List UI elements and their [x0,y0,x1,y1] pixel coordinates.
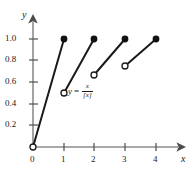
x-tick-label-0: 0 [30,155,35,164]
segment-1-line [33,39,64,147]
open-point-0-0 [30,144,36,150]
filled-point-1-1 [61,36,68,43]
y-axis-label: y [22,10,26,20]
y-tick-label-0.6: 0.6 [5,77,16,86]
open-point-3-075 [122,63,128,69]
filled-point-3-1 [122,36,129,43]
open-point-2-0667 [91,72,97,78]
y-tick-label-0.2: 0.2 [5,120,16,129]
x-tick-label-3: 3 [122,155,127,164]
data-segments [33,39,156,147]
open-point-1-05 [61,90,67,96]
plot-canvas [0,0,195,174]
equation-denominator: [x] [82,92,93,99]
segment-3-line [94,39,125,75]
x-tick-label-4: 4 [153,155,158,164]
segment-4-line [125,39,156,66]
x-tick-label-2: 2 [91,155,96,164]
x-axis [33,143,178,151]
x-axis-label: x [181,154,185,164]
filled-endpoints [61,36,160,43]
equation-fraction: x [x] [82,83,93,100]
x-tick-label-1: 1 [61,155,66,164]
y-tick-label-1.0: 1.0 [5,34,16,43]
filled-point-4-1 [153,36,160,43]
equation-numerator: x [85,83,90,90]
y-axis [29,22,38,147]
equation-equals: = [74,87,79,96]
equation-annotation: y = x [x] [68,83,93,100]
y-tick-label-0.8: 0.8 [5,55,16,64]
equation-lhs: y [68,87,72,96]
function-graph-figure: 1.0 0.8 0.6 0.4 0.2 0 1 2 3 4 y x y = x … [0,0,195,174]
y-tick-label-0.4: 0.4 [5,99,16,108]
filled-point-2-1 [91,36,98,43]
